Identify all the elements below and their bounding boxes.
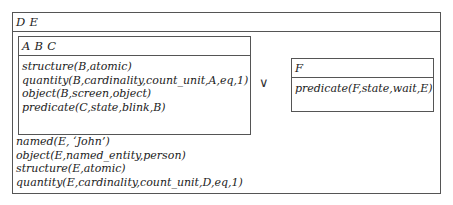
condition: predicate(C,state,blink,B) (19, 101, 250, 115)
outer-drs-box: D E A B C structure(B,atomic) quantity(B… (12, 12, 441, 194)
left-drs-box: A B C structure(B,atomic) quantity(B,car… (18, 36, 251, 135)
condition: quantity(B,cardinality,count_unit,A,eq,1… (19, 74, 250, 88)
left-drs-conditions: structure(B,atomic) quantity(B,cardinali… (19, 56, 250, 114)
disjunction-operator: ∨ (259, 75, 269, 90)
right-drs-conditions: predicate(F,state,wait,E) (292, 78, 433, 96)
left-drs-referents: A B C (19, 37, 250, 56)
condition: named(E, ‘John’) (13, 135, 243, 149)
right-drs-box: F predicate(F,state,wait,E) (291, 58, 434, 112)
outer-drs-referents: D E (13, 13, 440, 32)
condition: structure(B,atomic) (19, 60, 250, 74)
condition: object(E,named_entity,person) (13, 149, 243, 163)
condition: structure(E,atomic) (13, 162, 243, 176)
condition: object(B,screen,object) (19, 87, 250, 101)
right-drs-referents: F (292, 59, 433, 78)
condition: quantity(E,cardinality,count_unit,D,eq,1… (13, 176, 243, 190)
condition: predicate(F,state,wait,E) (292, 82, 433, 96)
outer-drs-conditions: named(E, ‘John’) object(E,named_entity,p… (13, 135, 243, 189)
